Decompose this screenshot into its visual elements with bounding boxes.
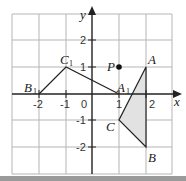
triangle-abc: [119, 67, 146, 147]
svg-text:1: 1: [33, 87, 37, 96]
y-tick-label: 2: [80, 34, 86, 46]
svg-text:A: A: [116, 80, 125, 95]
svg-text:C: C: [60, 52, 69, 67]
label-a1: A 1: [116, 80, 130, 96]
origin-label: 0: [81, 98, 87, 110]
x-axis-label: x: [173, 94, 180, 109]
y-axis-label: y: [78, 7, 86, 22]
svg-text:1: 1: [126, 87, 130, 96]
label-a: A: [147, 52, 156, 67]
svg-text:1: 1: [69, 59, 73, 68]
x-tick-label: 1: [116, 98, 122, 110]
y-tick-label: -2: [76, 141, 86, 153]
point-p: [116, 64, 122, 70]
label-p: P: [106, 59, 115, 74]
svg-text:B: B: [24, 80, 32, 95]
y-tick-label: -1: [76, 114, 86, 126]
label-b1: B 1: [24, 80, 37, 96]
label-c: C: [106, 119, 115, 134]
y-tick-label: 1: [80, 61, 86, 73]
y-axis-arrow-icon: [88, 6, 96, 15]
label-b: B: [148, 150, 156, 165]
bottom-bar: [0, 176, 186, 181]
label-c1: C 1: [60, 52, 73, 68]
coordinate-diagram: x y 0 -2 -1 1 2 2 1 -1 -2 A B C P A 1 B …: [0, 0, 186, 181]
x-tick-label: -2: [33, 98, 43, 110]
x-tick-label: 2: [149, 98, 155, 110]
x-tick-label: -1: [60, 98, 70, 110]
